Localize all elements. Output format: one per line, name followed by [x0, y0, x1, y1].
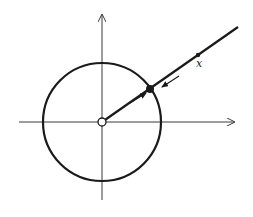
- ray: [102, 27, 238, 122]
- origin-point: [98, 118, 106, 126]
- projection-point: [146, 85, 154, 93]
- outward-arrow-icon: [130, 93, 146, 103]
- x-label: x: [196, 57, 203, 70]
- diagram-canvas: x: [0, 0, 253, 217]
